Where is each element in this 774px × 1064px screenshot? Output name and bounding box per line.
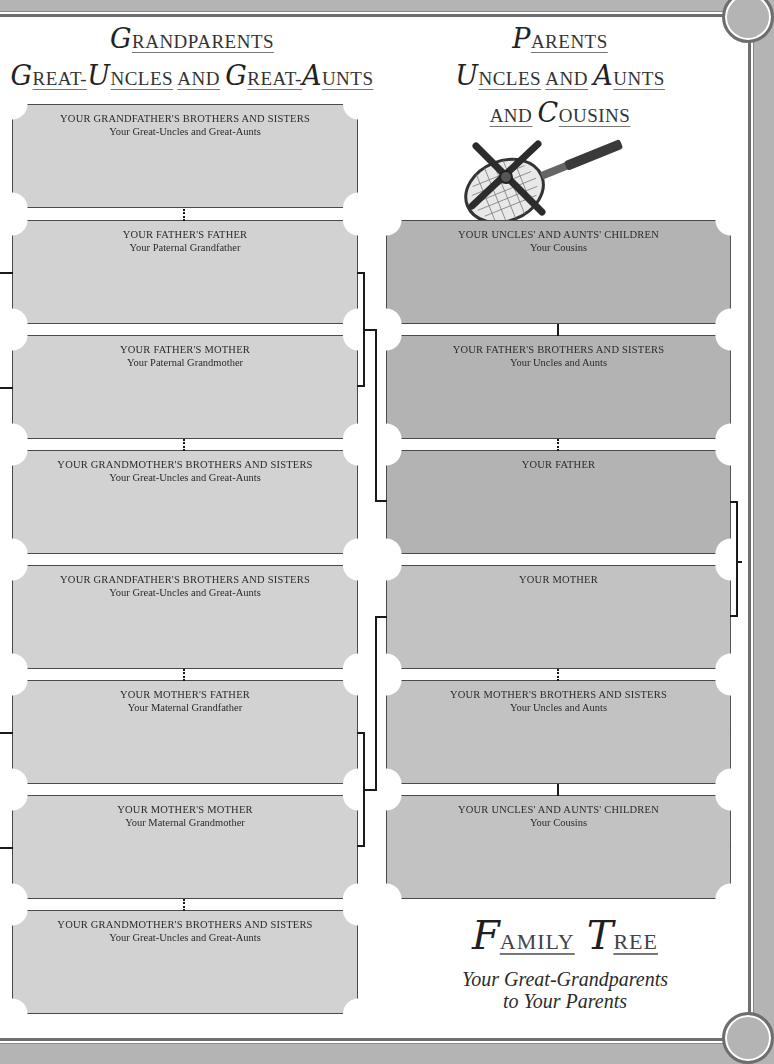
connector-stub <box>0 387 13 389</box>
sibling-connector <box>183 209 187 221</box>
box-fathers-siblings[interactable]: YOUR FATHER'S BROTHERS AND SISTERS Your … <box>386 335 731 439</box>
box-mothers-mother[interactable]: YOUR MOTHER'S MOTHER Your Maternal Grand… <box>12 795 358 899</box>
box-grandmothers-siblings-maternal[interactable]: YOUR GRANDMOTHER'S BROTHERS AND SISTERS … <box>12 910 358 1014</box>
left-column-heading: GRANDPARENTS GREAT-UNCLES AND GREAT-AUNT… <box>0 24 384 94</box>
sibling-connector <box>183 439 187 451</box>
heading-parents: PARENTS <box>400 24 720 57</box>
sibling-connector <box>557 439 561 451</box>
connector-stub <box>0 847 13 849</box>
box-grandfathers-siblings-paternal[interactable]: YOUR GRANDFATHER'S BROTHERS AND SISTERS … <box>12 104 358 208</box>
box-mothers-father[interactable]: YOUR MOTHER'S FATHER Your Maternal Grand… <box>12 680 358 784</box>
heading-uncles-aunts: UNCLES AND AUNTS <box>400 61 720 94</box>
cousin-connector <box>557 324 559 336</box>
right-column-heading: PARENTS UNCLES AND AUNTS AND COUSINS <box>400 24 720 131</box>
box-maternal-cousins[interactable]: YOUR UNCLES' AND AUNTS' CHILDREN Your Co… <box>386 795 731 899</box>
box-fathers-mother[interactable]: YOUR FATHER'S MOTHER Your Paternal Grand… <box>12 335 358 439</box>
connector-stub <box>0 272 13 274</box>
box-paternal-cousins[interactable]: YOUR UNCLES' AND AUNTS' CHILDREN Your Co… <box>386 220 731 324</box>
box-fathers-father[interactable]: YOUR FATHER'S FATHER Your Paternal Grand… <box>12 220 358 324</box>
bracket-maternal <box>357 845 365 847</box>
bracket-paternal <box>357 385 365 387</box>
sibling-connector <box>557 669 561 681</box>
tennis-racket-icon <box>462 126 632 222</box>
heading-grandparents: GRANDPARENTS <box>0 24 384 57</box>
page-corner-top-right <box>722 0 774 43</box>
box-your-father[interactable]: YOUR FATHER <box>386 450 731 554</box>
box-grandmothers-siblings-paternal[interactable]: YOUR GRANDMOTHER'S BROTHERS AND SISTERS … <box>12 450 358 554</box>
bracket-maternal <box>375 616 387 618</box>
bracket-parents <box>736 501 738 617</box>
sibling-connector <box>183 899 187 911</box>
page-corner-bottom-right <box>722 1012 774 1064</box>
bracket-maternal <box>375 616 377 791</box>
bracket-paternal <box>375 500 387 502</box>
family-tree-subtitle: Your Great-Grandparents to Your Parents <box>420 968 710 1012</box>
bracket-paternal <box>375 329 377 501</box>
box-mothers-siblings[interactable]: YOUR MOTHER'S BROTHERS AND SISTERS Your … <box>386 680 731 784</box>
bracket-parents <box>730 615 738 617</box>
family-tree-title: FAMILY TREE <box>420 912 710 958</box>
connector-stub <box>0 732 13 734</box>
sibling-connector <box>183 669 187 681</box>
box-your-mother[interactable]: YOUR MOTHER <box>386 565 731 669</box>
cousin-connector <box>557 784 559 796</box>
heading-great-uncles-aunts: GREAT-UNCLES AND GREAT-AUNTS <box>0 61 384 94</box>
box-grandfathers-siblings-maternal[interactable]: YOUR GRANDFATHER'S BROTHERS AND SISTERS … <box>12 565 358 669</box>
bracket-parents <box>736 561 742 563</box>
